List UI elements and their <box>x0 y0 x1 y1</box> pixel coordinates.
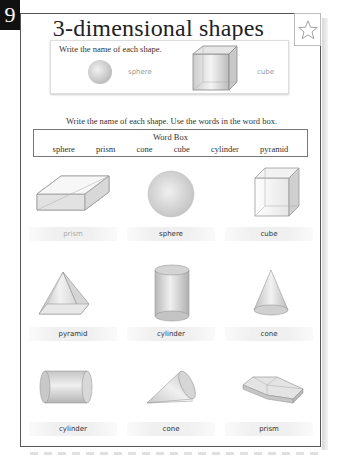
word-cone: cone <box>137 144 153 154</box>
answer-label: sphere <box>127 227 215 241</box>
word-box-title: Word Box <box>34 132 307 142</box>
shape-cell-cone: cone <box>221 264 317 360</box>
pyramid-icon <box>25 264 121 326</box>
instruction: Write the name of each shape. Use the wo… <box>21 116 322 126</box>
shape-cell-prism: prism <box>25 164 121 260</box>
page-title: 3-dimensional shapes <box>21 14 296 42</box>
shape-cell-hexagonal-prism: prism <box>221 359 317 455</box>
shape-cell-sphere: sphere <box>123 164 219 260</box>
shape-cell-cylinder: cylinder <box>123 264 219 360</box>
sphere-icon <box>87 59 113 85</box>
star-box <box>294 13 321 46</box>
star-outline-icon <box>297 19 319 41</box>
worksheet-frame: 3-dimensional shapes Write the name of e… <box>20 13 321 447</box>
page-number: 9 <box>0 0 20 30</box>
sphere-icon <box>123 164 219 226</box>
example-box: Write the name of each shape. sphere cub… <box>50 40 289 94</box>
example-answer-sphere: sphere <box>128 68 152 76</box>
cylinder-icon <box>123 264 219 326</box>
cylinder-sideways-icon <box>25 359 121 421</box>
answer-label: pyramid <box>29 327 117 341</box>
page-shadow <box>322 18 328 450</box>
shape-cell-cylinder-sideways: cylinder <box>25 359 121 455</box>
cone-icon <box>221 264 317 326</box>
answer-label: cylinder <box>127 327 215 341</box>
answer-label: cube <box>225 227 313 241</box>
answer-label: cylinder <box>29 422 117 436</box>
shape-cell-cube: cube <box>221 164 317 260</box>
shape-cell-cone-tilted: cone <box>123 359 219 455</box>
word-pyramid: pyramid <box>260 144 288 154</box>
answer-label: prism <box>225 422 313 436</box>
word-prism: prism <box>96 144 115 154</box>
hexagonal-prism-icon <box>221 359 317 421</box>
word-sphere: sphere <box>53 144 75 154</box>
word-cylinder: cylinder <box>211 144 239 154</box>
word-box-words: sphere prism cone cube cylinder pyramid <box>34 144 307 154</box>
word-box: Word Box sphere prism cone cube cylinder… <box>33 129 308 157</box>
bottom-faint-text <box>30 452 320 455</box>
cone-tilted-icon <box>123 359 219 421</box>
cube-icon <box>221 164 317 226</box>
cube-icon <box>191 44 239 91</box>
answer-label: prism <box>29 227 117 241</box>
shape-cell-pyramid: pyramid <box>25 264 121 360</box>
rectangular-prism-icon <box>25 164 121 226</box>
example-answer-cube: cube <box>257 68 274 76</box>
word-cube: cube <box>174 144 190 154</box>
example-instruction: Write the name of each shape. <box>59 44 162 54</box>
answer-label: cone <box>127 422 215 436</box>
answer-label: cone <box>225 327 313 341</box>
